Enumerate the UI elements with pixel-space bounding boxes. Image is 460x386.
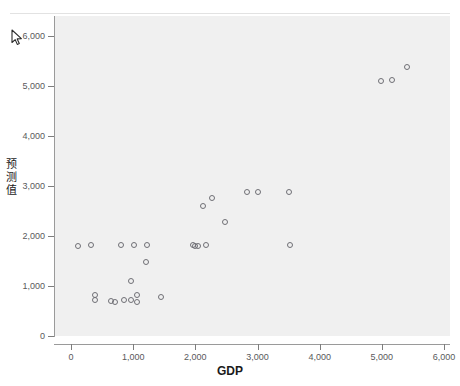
data-point: [131, 242, 137, 248]
scatter-chart: 01,0002,0003,0004,0005,0006,000 01,0002,…: [0, 0, 460, 386]
y-axis-line: [54, 16, 55, 337]
data-point: [255, 189, 261, 195]
y-tick-mark: [48, 36, 54, 37]
data-point: [158, 294, 164, 300]
data-point: [195, 243, 201, 249]
y-axis-title-char: 预: [4, 158, 18, 171]
y-tick-label: 3,000: [22, 181, 45, 191]
x-tick-mark: [444, 344, 445, 350]
y-tick-label: 6,000: [22, 31, 45, 41]
mouse-pointer-icon: [11, 29, 23, 46]
x-axis-line: [54, 344, 450, 345]
x-tick-label: 2,000: [165, 352, 225, 362]
data-point: [118, 242, 124, 248]
x-tick-label: 5,000: [352, 352, 412, 362]
data-point: [287, 242, 293, 248]
y-tick-mark: [48, 136, 54, 137]
y-tick-label: 2,000: [22, 231, 45, 241]
top-divider: [10, 13, 450, 14]
y-tick-label: 0: [40, 331, 45, 341]
data-point: [143, 259, 149, 265]
y-tick-mark: [48, 86, 54, 87]
x-tick-mark: [382, 344, 383, 350]
data-point: [404, 64, 410, 70]
data-point: [286, 189, 292, 195]
x-tick-label: 4,000: [290, 352, 350, 362]
y-axis-title-char: 值: [4, 184, 18, 197]
x-tick-mark: [320, 344, 321, 350]
y-tick-mark: [48, 336, 54, 337]
data-point: [244, 189, 250, 195]
data-point: [134, 292, 140, 298]
x-tick-mark: [258, 344, 259, 350]
data-point: [88, 242, 94, 248]
plot-area: [55, 16, 450, 336]
x-tick-mark: [71, 344, 72, 350]
x-tick-label: 6,000: [414, 352, 460, 362]
data-point: [222, 219, 228, 225]
y-tick-label: 1,000: [22, 281, 45, 291]
y-tick-mark: [48, 236, 54, 237]
x-tick-mark: [133, 344, 134, 350]
x-axis-title: GDP: [0, 364, 460, 378]
data-point: [389, 77, 395, 83]
x-tick-label: 3,000: [228, 352, 288, 362]
y-tick-mark: [48, 286, 54, 287]
data-point: [128, 278, 134, 284]
data-point: [112, 299, 118, 305]
x-tick-mark: [195, 344, 196, 350]
y-axis-title: 预测值: [4, 158, 18, 197]
y-tick-label: 5,000: [22, 81, 45, 91]
data-point: [203, 242, 209, 248]
x-tick-label: 1,000: [103, 352, 163, 362]
y-tick-mark: [48, 186, 54, 187]
x-tick-label: 0: [41, 352, 101, 362]
data-point: [134, 299, 140, 305]
y-axis-title-char: 测: [4, 171, 18, 184]
y-tick-label: 4,000: [22, 131, 45, 141]
